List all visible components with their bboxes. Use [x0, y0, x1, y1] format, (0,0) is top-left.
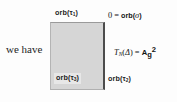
eq-right-value-sup: 2	[152, 45, 156, 54]
eq-right-equals: =	[135, 48, 140, 57]
eq-top-orb: orb(	[121, 11, 135, 20]
equation-zero-equals-orb-sigma: 0 = orb(σ)	[108, 12, 142, 20]
eq-top-zero: 0	[108, 11, 112, 20]
label-orb-tau2-text: orb(	[108, 74, 122, 83]
label-orb-tau3-close: )	[77, 73, 80, 82]
figure-container: we have orb(τ1) orb(τ3) orb(τ2) 0 = orb(…	[0, 0, 177, 102]
label-orb-tau1-close: )	[76, 8, 79, 17]
equation-tn-delta: TN(Δ) = Ag2	[114, 46, 156, 58]
label-orb-tau2: orb(τ2)	[108, 75, 131, 84]
label-orb-tau2-close: )	[129, 74, 132, 83]
eq-right-close: )	[130, 48, 133, 57]
label-orb-tau1-text: orb(	[55, 8, 69, 17]
label-orb-tau1: orb(τ1)	[55, 9, 78, 18]
eq-top-close: )	[139, 11, 141, 20]
eq-top-equals: =	[114, 11, 119, 20]
prose-text: we have	[6, 44, 42, 55]
label-orb-tau3-text: orb(	[56, 73, 70, 82]
label-orb-tau3: orb(τ3)	[54, 73, 81, 84]
